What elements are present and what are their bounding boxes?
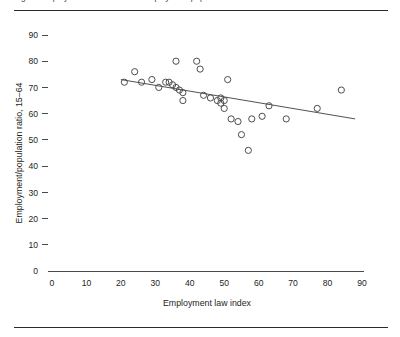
data-point	[149, 76, 155, 82]
data-point	[338, 87, 344, 93]
data-point	[283, 116, 289, 122]
data-point	[249, 116, 255, 122]
data-point	[180, 97, 186, 103]
y-axis-tick-label: 80	[28, 56, 38, 66]
scatter-plot: 01020304050607080900102030405060708090Em…	[0, 0, 400, 337]
y-axis-tick-label: 90	[28, 30, 38, 40]
data-point	[197, 66, 203, 72]
data-point	[259, 113, 265, 119]
data-point	[132, 69, 138, 75]
x-axis-tick-label: 20	[116, 278, 126, 288]
data-point	[235, 118, 241, 124]
x-axis-tick-label: 10	[82, 278, 92, 288]
data-point	[245, 147, 251, 153]
y-axis-tick-label: 60	[28, 109, 38, 119]
y-axis-tick-label: 0	[33, 266, 38, 276]
data-point	[173, 58, 179, 64]
data-point	[221, 105, 227, 111]
data-point	[156, 84, 162, 90]
y-axis-tick-label: 30	[28, 188, 38, 198]
y-axis-tick-label: 20	[28, 214, 38, 224]
bottom-rule	[14, 327, 388, 328]
data-point	[314, 105, 320, 111]
x-axis-tick-label: 40	[185, 278, 195, 288]
x-axis-tick-label: 30	[151, 278, 161, 288]
x-axis-tick-label: 70	[288, 278, 298, 288]
data-point	[225, 76, 231, 82]
data-point	[266, 103, 272, 109]
y-axis-tick-label: 10	[28, 240, 38, 250]
x-axis-tick-label: 80	[323, 278, 333, 288]
x-axis-tick-label: 90	[357, 278, 367, 288]
x-axis-title: Employment law index	[163, 298, 252, 308]
figure-panel: Figure Employment law index and employme…	[0, 0, 400, 337]
data-point	[207, 95, 213, 101]
x-axis-tick-label: 50	[219, 278, 229, 288]
y-axis-tick-label: 40	[28, 161, 38, 171]
data-point	[228, 116, 234, 122]
y-axis-tick-label: 50	[28, 135, 38, 145]
data-point	[238, 132, 244, 138]
y-axis-tick-label: 70	[28, 83, 38, 93]
x-axis-tick-label: 0	[50, 278, 55, 288]
data-point	[194, 58, 200, 64]
x-axis-tick-label: 60	[254, 278, 264, 288]
y-axis-title: Employment/population ratio, 15–64	[14, 82, 24, 223]
data-point	[138, 79, 144, 85]
